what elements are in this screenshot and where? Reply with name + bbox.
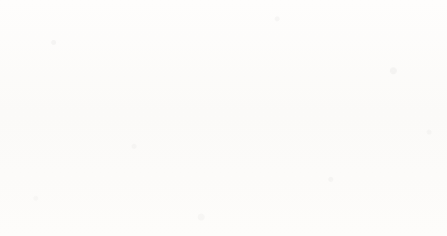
x-axis-tick — [285, 203, 286, 207]
bar-secondary-industry — [199, 55, 213, 204]
y-axis-tick-label: 40 — [26, 110, 37, 121]
bar-group — [198, 55, 228, 204]
x-axis-tick — [45, 203, 46, 207]
y-axis-tick-label: 50 — [26, 88, 37, 99]
bar-chart: Weight of secondary industry of Tiexi's … — [0, 0, 447, 236]
y-axis-tick — [40, 71, 45, 72]
bar-tertiary-industry — [310, 115, 324, 203]
bar-tertiary-industry — [358, 74, 372, 203]
bar-secondary-industry — [391, 145, 405, 203]
bar-group — [150, 77, 180, 204]
y-axis-tick — [40, 115, 45, 116]
y-axis-tick — [40, 137, 45, 138]
y-axis-tick-label: 70 — [26, 44, 37, 55]
bar-group — [54, 93, 84, 203]
x-axis-tick — [141, 203, 142, 207]
y-axis-tick-label: 30 — [26, 132, 37, 143]
bar-tertiary-industry — [262, 115, 276, 203]
x-axis-tick — [93, 203, 94, 207]
bar-secondary-industry — [151, 77, 165, 204]
plot-area: % 01020304050607080 20022003200420052006… — [45, 27, 429, 203]
bar-group — [246, 69, 276, 203]
legend-item-secondary-industry: Weight of secondary industry of Tiexi's … — [86, 8, 343, 23]
y-axis-tick-label: 10 — [26, 176, 37, 187]
y-axis-tick-label: 0 — [32, 198, 37, 209]
y-axis-tick — [40, 181, 45, 182]
x-axis-tick — [237, 203, 238, 207]
y-axis-tick — [40, 93, 45, 94]
x-axis-tick — [189, 203, 190, 207]
bar-group — [102, 93, 132, 203]
bar-group — [390, 39, 420, 203]
y-axis-unit-label: % — [55, 25, 63, 35]
x-axis-tick — [429, 203, 430, 207]
y-axis-tick-label: 80 — [26, 22, 37, 33]
x-axis-tick — [333, 203, 334, 207]
bar-secondary-industry — [103, 93, 117, 203]
x-axis-title: Year — [392, 209, 411, 220]
bar-secondary-industry — [343, 110, 357, 204]
bar-secondary-industry — [295, 69, 309, 203]
bar-tertiary-industry — [214, 129, 228, 203]
y-axis-tick-label: 20 — [26, 154, 37, 165]
bar-tertiary-industry — [166, 123, 180, 203]
y-axis-line — [45, 27, 46, 203]
bar-tertiary-industry — [118, 93, 132, 203]
legend-label-secondary-industry: Weight of secondary industry of Tiexi's … — [98, 10, 343, 22]
legend-swatch-secondary-industry — [86, 12, 93, 19]
y-axis-tick — [40, 159, 45, 160]
bar-group — [342, 74, 372, 203]
bar-group — [294, 69, 324, 203]
bar-secondary-industry — [55, 93, 69, 203]
y-axis-tick — [40, 49, 45, 50]
bar-secondary-industry — [247, 69, 261, 203]
y-axis-tick — [40, 27, 45, 28]
x-axis-tick — [381, 203, 382, 207]
y-axis-tick-label: 60 — [26, 66, 37, 77]
bar-tertiary-industry — [70, 93, 84, 203]
bar-tertiary-industry — [406, 39, 420, 203]
